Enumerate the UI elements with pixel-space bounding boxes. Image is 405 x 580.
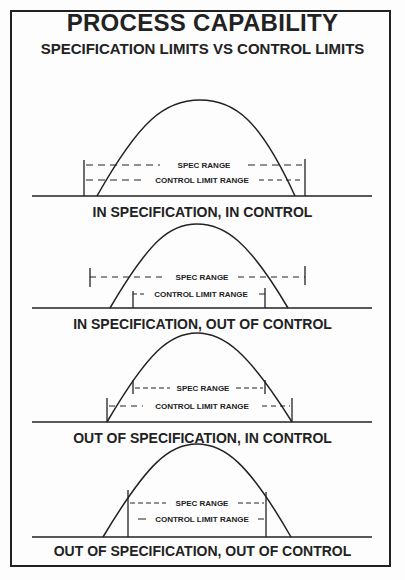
panel-out-of-spec-out-of-control: SPEC RANGE CONTROL LIMIT RANGE	[32, 444, 372, 537]
panel-in-spec-out-of-control: SPEC RANGE CONTROL LIMIT RANGE	[32, 224, 372, 308]
control-range-label: CONTROL LIMIT RANGE	[155, 402, 249, 411]
panel-out-of-spec-in-control: SPEC RANGE CONTROL LIMIT RANGE	[32, 333, 372, 422]
caption-panel-1: IN SPECIFICATION, IN CONTROL	[0, 204, 405, 220]
spec-range-label: SPEC RANGE	[177, 384, 231, 393]
caption-panel-4: OUT OF SPECIFICATION, OUT OF CONTROL	[0, 543, 405, 559]
control-range-label: CONTROL LIMIT RANGE	[154, 290, 248, 299]
control-range-label: CONTROL LIMIT RANGE	[155, 515, 249, 524]
caption-panel-3: OUT OF SPECIFICATION, IN CONTROL	[0, 430, 405, 446]
capability-diagrams: SPEC RANGE CONTROL LIMIT RANGE SPEC RANG…	[0, 0, 405, 580]
spec-range-label: SPEC RANGE	[176, 499, 230, 508]
panel-in-spec-in-control: SPEC RANGE CONTROL LIMIT RANGE	[32, 100, 372, 196]
spec-range-label: SPEC RANGE	[178, 161, 232, 170]
control-range-label: CONTROL LIMIT RANGE	[155, 176, 249, 185]
spec-range-label: SPEC RANGE	[176, 273, 230, 282]
caption-panel-2: IN SPECIFICATION, OUT OF CONTROL	[0, 316, 405, 332]
